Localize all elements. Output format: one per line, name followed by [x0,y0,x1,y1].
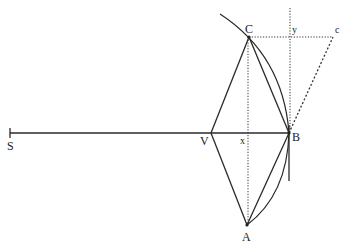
label-B: B [292,130,300,144]
label-C: C [245,22,253,36]
label-x: x [240,135,245,146]
label-A: A [242,230,251,244]
line-VC [211,37,249,133]
point-A [245,223,248,226]
label-y: y [292,24,297,35]
label-c: c [335,24,340,35]
line-AB [247,133,289,225]
label-S: S [7,139,14,153]
geometry-diagram: S V x B C A y c [0,0,349,247]
arc-upper [220,14,289,133]
line-CB [249,37,289,133]
line-VA [211,133,247,225]
label-V: V [200,134,209,148]
point-B [287,131,290,134]
dashed-Bc [289,37,333,133]
